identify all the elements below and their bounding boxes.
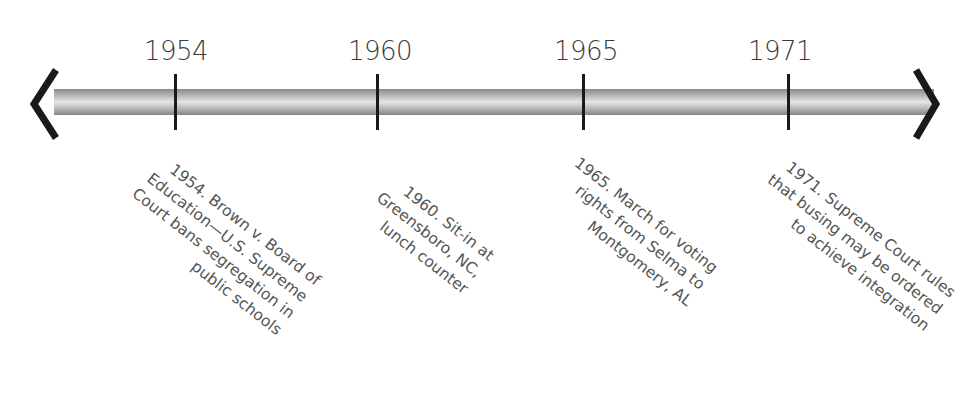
year-label: 1965 bbox=[554, 36, 618, 66]
event-description: 1965. March for voting rights from Selma… bbox=[537, 148, 722, 312]
timeline-bar bbox=[54, 89, 934, 115]
year-label: 1960 bbox=[348, 36, 412, 66]
tick-1960 bbox=[376, 74, 379, 130]
year-label: 1971 bbox=[748, 36, 812, 66]
tick-1971 bbox=[787, 74, 790, 130]
right-arrow-icon bbox=[908, 66, 948, 142]
year-label: 1954 bbox=[144, 36, 208, 66]
event-description: 1954. Brown v. Board of Education—U.S. S… bbox=[111, 148, 324, 340]
event-description: 1960. Sit-in at Greensboro, NC, lunch co… bbox=[329, 148, 498, 299]
event-description: 1971. Supreme Court rules that busing ma… bbox=[743, 148, 959, 336]
tick-1965 bbox=[582, 74, 585, 130]
tick-1954 bbox=[174, 74, 177, 130]
